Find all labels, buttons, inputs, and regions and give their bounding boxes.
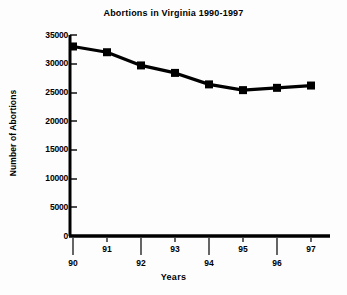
- plot-svg: [0, 0, 347, 295]
- data-point-marker: [103, 48, 111, 56]
- data-point-marker: [69, 42, 77, 50]
- data-markers: [69, 42, 315, 94]
- plot-area: Number of Abortions Years 35000 30000 25…: [0, 0, 347, 295]
- data-point-marker: [137, 61, 145, 69]
- data-point-marker: [273, 84, 281, 92]
- data-point-marker: [239, 86, 247, 94]
- chart-page: Abortions in Virginia 1990-1997 Number o…: [0, 0, 347, 295]
- data-point-marker: [171, 69, 179, 77]
- data-point-marker: [307, 82, 315, 90]
- data-point-marker: [205, 80, 213, 88]
- x-tick-marks: [73, 238, 311, 255]
